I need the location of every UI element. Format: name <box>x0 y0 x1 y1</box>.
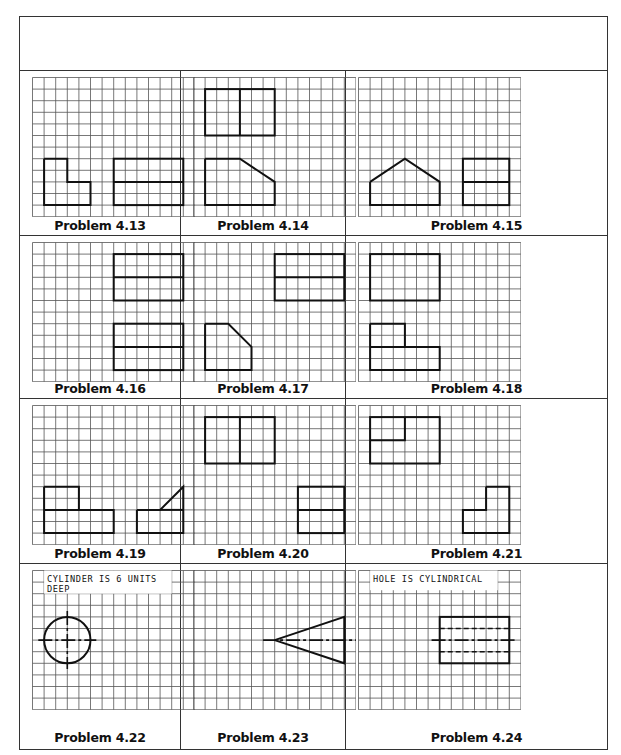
problem-note: DEEP <box>47 584 70 594</box>
problem-panel: Problem 4.19 <box>20 399 181 564</box>
problem-caption: Problem 4.17 <box>181 381 345 396</box>
graph-grid <box>193 242 356 382</box>
graph-grid <box>193 77 356 217</box>
problem-panel: HOLE IS CYLINDRICALProblem 4.24 <box>346 564 607 749</box>
problem-panel: Problem 4.15 <box>346 71 607 236</box>
problem-caption: Problem 4.13 <box>20 218 180 233</box>
problem-panel: Problem 4.21 <box>346 399 607 564</box>
problem-panel: CYLINDER IS 6 UNITSDEEPProblem 4.22 <box>20 564 181 749</box>
problem-panel: Problem 4.13 <box>20 71 181 236</box>
graph-grid: CYLINDER IS 6 UNITSDEEP <box>32 570 195 710</box>
graph-grid <box>32 77 195 217</box>
problem-note: HOLE IS CYLINDRICAL <box>373 574 483 584</box>
graph-grid: HOLE IS CYLINDRICAL <box>358 570 521 710</box>
problem-panel: Problem 4.20 <box>181 399 346 564</box>
problem-caption: Problem 4.23 <box>181 730 345 745</box>
problem-caption: Problem 4.18 <box>346 381 607 396</box>
graph-grid <box>32 242 195 382</box>
graph-grid <box>193 570 356 710</box>
graph-grid <box>32 405 195 545</box>
graph-grid <box>358 405 521 545</box>
problem-caption: Problem 4.19 <box>20 546 180 561</box>
problem-caption: Problem 4.22 <box>20 730 180 745</box>
problem-grid: Problem 4.13Problem 4.14Problem 4.15Prob… <box>20 71 607 749</box>
problem-panel: Problem 4.23 <box>181 564 346 749</box>
problem-panel: Problem 4.14 <box>181 71 346 236</box>
problem-caption: Problem 4.24 <box>346 730 607 745</box>
problem-panel: Problem 4.17 <box>181 236 346 399</box>
problem-caption: Problem 4.21 <box>346 546 607 561</box>
problem-panel: Problem 4.18 <box>346 236 607 399</box>
header-box <box>20 17 607 71</box>
problem-panel: Problem 4.16 <box>20 236 181 399</box>
worksheet-frame: Problem 4.13Problem 4.14Problem 4.15Prob… <box>19 16 608 750</box>
problem-note: CYLINDER IS 6 UNITS <box>47 574 157 584</box>
problem-caption: Problem 4.20 <box>181 546 345 561</box>
problem-caption: Problem 4.15 <box>346 218 607 233</box>
graph-grid <box>358 77 521 217</box>
graph-grid <box>358 242 521 382</box>
problem-caption: Problem 4.16 <box>20 381 180 396</box>
graph-grid <box>193 405 356 545</box>
problem-caption: Problem 4.14 <box>181 218 345 233</box>
